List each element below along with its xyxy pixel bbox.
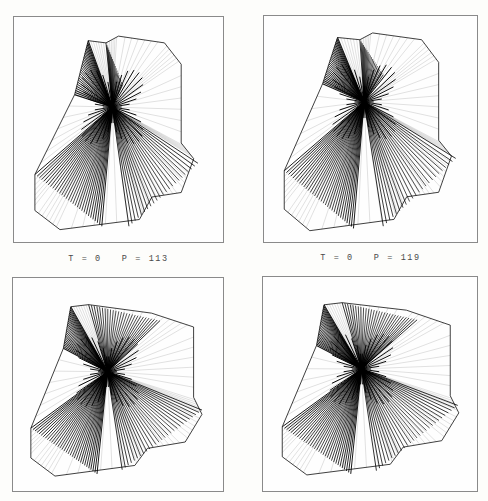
ruled-surface-plate-1 [13,16,224,243]
wireframe-canvas-2 [264,16,477,242]
wireframe-canvas-4 [263,277,477,491]
figure-sheet: T = 0 P = 113 T = 0 P = 119 [0,0,488,501]
wireframe-canvas-1 [14,17,223,242]
ruled-surface-plate-4 [262,276,478,492]
plate-caption-2: T = 0 P = 119 [263,253,478,263]
ruled-surface-plate-2 [263,15,478,243]
wireframe-canvas-3 [13,278,223,491]
ruled-surface-plate-3 [12,277,224,492]
plate-caption-1: T = 0 P = 113 [13,254,224,264]
